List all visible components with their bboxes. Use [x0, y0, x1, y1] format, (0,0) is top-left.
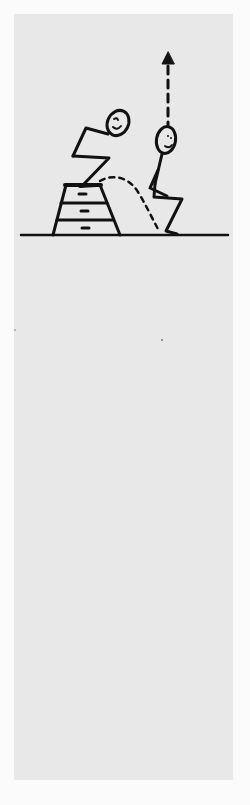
depth-jump-illustration [0, 0, 250, 805]
jump-box [53, 185, 120, 235]
athlete-crouched-on-box [73, 107, 133, 186]
speck [161, 339, 163, 341]
page: depth jump exercise [0, 0, 250, 805]
speck [14, 329, 16, 331]
upward-dashed-arrow [162, 52, 174, 125]
head-icon [154, 125, 177, 155]
athlete-landing-squat [150, 125, 182, 234]
